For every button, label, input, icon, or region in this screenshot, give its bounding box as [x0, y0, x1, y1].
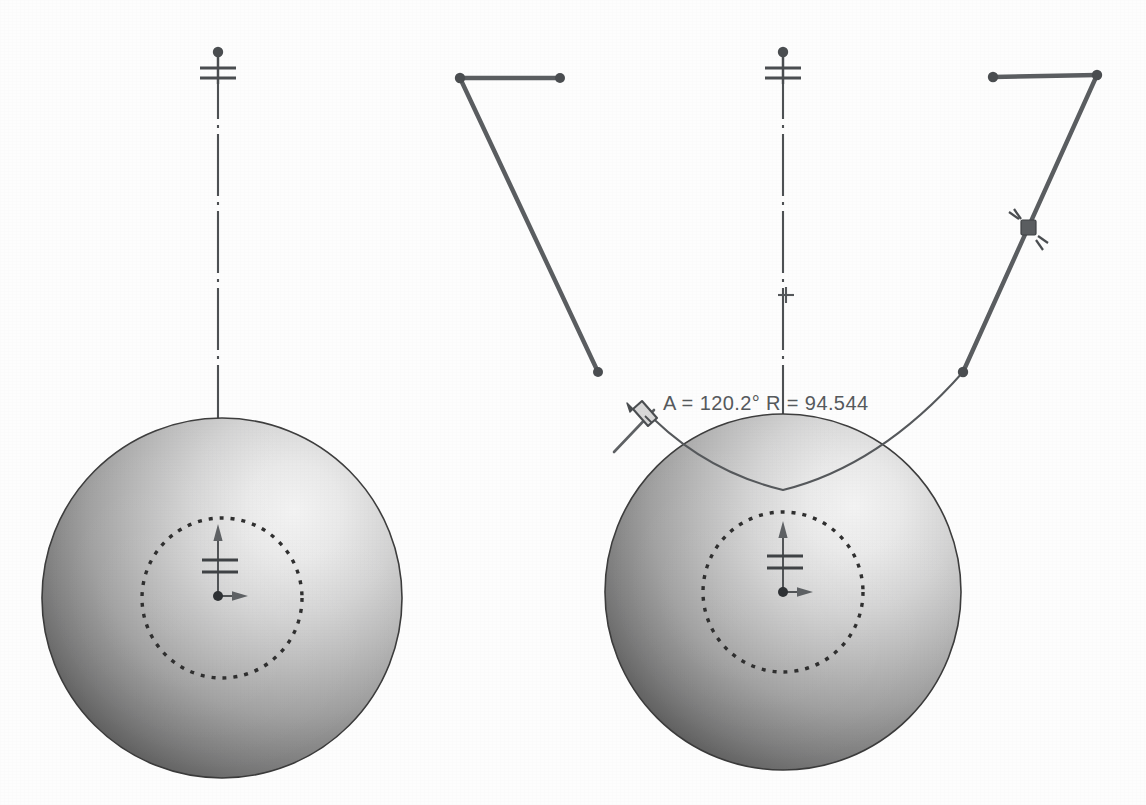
- left-view-group[interactable]: [42, 47, 402, 778]
- right-horizontal-segment[interactable]: [993, 75, 1097, 77]
- right-sketch-branch[interactable]: [958, 70, 1102, 377]
- sketch-point[interactable]: [958, 367, 968, 377]
- left-diagonal-segment[interactable]: [460, 78, 598, 372]
- sketch-point[interactable]: [455, 73, 465, 83]
- plus-mark-icon[interactable]: [778, 287, 794, 303]
- left-sketch-branch[interactable]: [455, 73, 603, 377]
- left-top-datum-marker[interactable]: [200, 47, 236, 84]
- sketch-point[interactable]: [1092, 70, 1102, 80]
- cad-canvas[interactable]: A = 120.2° R = 94.544: [0, 0, 1146, 805]
- drag-handle-icon[interactable]: [1009, 209, 1048, 250]
- pencil-cursor-icon: [614, 401, 657, 452]
- sketch-point[interactable]: [988, 72, 998, 82]
- sketch-point[interactable]: [555, 73, 565, 83]
- dimension-readout[interactable]: A = 120.2° R = 94.544: [663, 392, 868, 414]
- cad-drawing-surface[interactable]: A = 120.2° R = 94.544: [0, 0, 1146, 805]
- right-top-datum-marker[interactable]: [765, 47, 801, 84]
- sketch-point[interactable]: [593, 367, 603, 377]
